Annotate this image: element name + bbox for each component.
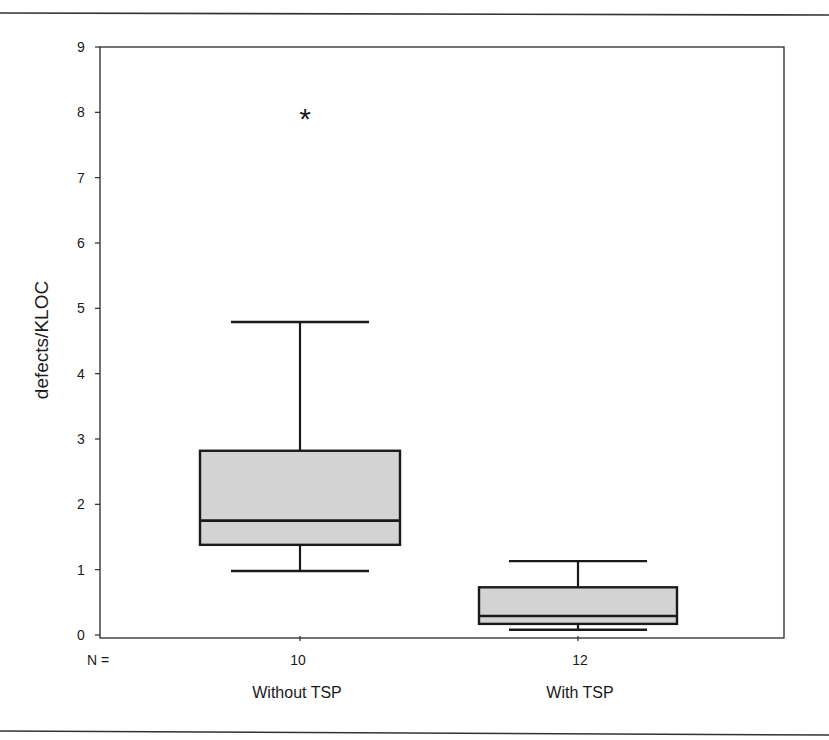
iqr-box <box>479 587 677 624</box>
plot-frame <box>100 47 784 638</box>
n-equals-label: N = <box>87 652 109 668</box>
y-tick-label: 3 <box>77 431 85 447</box>
category-label-with-tsp: With TSP <box>546 684 613 701</box>
box-series: * <box>200 102 677 630</box>
boxplot-figure: 0123456789 * defects/KLOC N = 10 Without… <box>0 0 829 740</box>
extreme-value-marker: * <box>299 102 311 135</box>
y-axis-label: defects/KLOC <box>31 281 52 399</box>
y-tick-label: 7 <box>77 170 85 186</box>
y-tick-label: 8 <box>77 104 85 120</box>
chart-canvas: 0123456789 * defects/KLOC N = 10 Without… <box>0 0 829 740</box>
y-tick-label: 4 <box>77 366 85 382</box>
y-tick-label: 2 <box>77 496 85 512</box>
y-tick-label: 0 <box>77 627 85 643</box>
bottom-rule <box>0 731 829 735</box>
n-value-without-tsp: 10 <box>290 652 306 668</box>
top-rule <box>0 13 829 15</box>
box-without-tsp: * <box>200 102 400 571</box>
y-tick-label: 9 <box>77 39 85 55</box>
y-tick-label: 5 <box>77 300 85 316</box>
category-label-without-tsp: Without TSP <box>252 684 342 701</box>
n-value-with-tsp: 12 <box>572 652 588 668</box>
iqr-box <box>200 451 400 545</box>
y-axis-ticks: 0123456789 <box>77 39 100 643</box>
y-tick-label: 6 <box>77 235 85 251</box>
y-tick-label: 1 <box>77 562 85 578</box>
box-with-tsp <box>479 561 677 630</box>
